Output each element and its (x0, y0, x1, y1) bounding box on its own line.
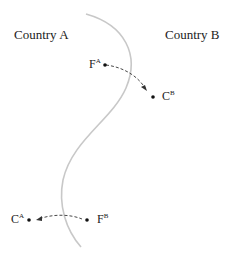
label-cb-main: C (162, 89, 170, 103)
point-ca (27, 218, 31, 222)
point-fb (85, 218, 89, 222)
arrow-fa-to-cb (106, 65, 145, 88)
label-fb-main: F (97, 212, 104, 226)
label-ca-main: C (11, 212, 19, 226)
label-cb: CB (162, 89, 175, 104)
label-ca-sup: A (19, 212, 24, 220)
country-b-label: Country B (165, 27, 220, 43)
point-fa (103, 63, 107, 67)
label-fb-sup: B (104, 212, 109, 220)
diagram-canvas: Country A Country B FA CB CA FB (0, 0, 228, 262)
label-cb-sup: B (170, 89, 175, 97)
arrow-fb-to-ca (39, 215, 82, 219)
label-fa-main: F (89, 57, 96, 71)
arrowhead-ca (36, 216, 42, 221)
label-fb: FB (97, 212, 108, 227)
label-fa: FA (89, 57, 101, 72)
arrowhead-cb (141, 85, 147, 91)
label-fa-sup: A (96, 57, 101, 65)
label-ca: CA (11, 212, 24, 227)
country-a-label: Country A (14, 27, 69, 43)
point-cb (151, 95, 155, 99)
